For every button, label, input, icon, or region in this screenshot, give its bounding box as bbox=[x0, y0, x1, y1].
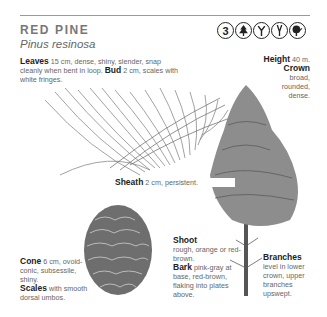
branches-annotation: Brancheslevel in lower crown, upper bran… bbox=[263, 253, 321, 298]
pine-cone-illustration bbox=[84, 205, 152, 295]
branches-text: level in lower crown, upper branches ups… bbox=[263, 262, 305, 298]
sheath-label: Sheath bbox=[115, 177, 143, 187]
needle-cluster-illustration bbox=[45, 88, 230, 175]
scales-label: Scales bbox=[20, 283, 47, 293]
leaves-label: Leaves bbox=[20, 56, 49, 66]
crown-text: broad, rounded, dense. bbox=[272, 73, 310, 100]
sheath-text: 2 cm, persistent. bbox=[143, 178, 198, 187]
crown-label: Crown bbox=[284, 63, 310, 73]
bud-label: Bud bbox=[105, 65, 122, 75]
height-crown-annotation: Height 40 m.Crownbroad, rounded, dense. bbox=[245, 55, 310, 100]
leaves-annotation: Leaves 15 cm, dense, shiny, slender, sna… bbox=[20, 57, 178, 84]
shoot-bark-annotation: Shootrough, orange or red-brown.Bark pin… bbox=[173, 236, 241, 299]
cone-label: Cone bbox=[20, 256, 41, 266]
shoot-label: Shoot bbox=[173, 235, 197, 245]
sheath-annotation: Sheath 2 cm, persistent. bbox=[115, 178, 235, 187]
shoot-text: rough, orange or red-brown. bbox=[173, 245, 241, 263]
bark-label: Bark bbox=[173, 262, 192, 272]
cone-annotation: Cone 6 cm, ovoid-conic, subsessile, shin… bbox=[20, 257, 90, 302]
branches-label: Branches bbox=[263, 252, 302, 262]
